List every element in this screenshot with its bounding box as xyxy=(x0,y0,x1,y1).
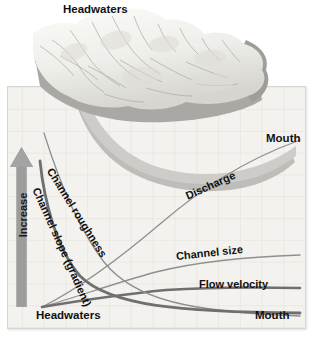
label-mouth-top: Mouth xyxy=(266,132,300,144)
arrow-up-icon xyxy=(10,147,33,307)
label-headwaters-top: Headwaters xyxy=(63,3,128,15)
label-mouth-bottom: Mouth xyxy=(255,309,289,321)
series-label-flow-velocity: Flow velocity xyxy=(199,278,268,290)
increase-axis-arrow: Increase xyxy=(10,147,33,307)
label-headwaters-bottom: Headwaters xyxy=(36,309,101,321)
river-profile-figure: Increase Headwaters Mouth Headwaters Mou… xyxy=(0,0,313,340)
